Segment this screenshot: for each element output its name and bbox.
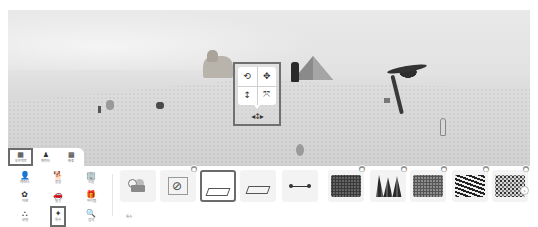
asset-card-zebra[interactable]: ●	[452, 170, 488, 202]
asset-card-line[interactable]	[282, 170, 318, 202]
category-grid: 👤캐릭터 🐕동물 🏢건물 ✿자연 🚗탈것 🎁아이템 ⛬모형 ✦특수 🔍검색	[8, 168, 108, 226]
rotate-button[interactable]: ⟲	[238, 67, 257, 86]
trees-thumbnail	[373, 175, 403, 197]
asset-card-grass[interactable]: ●	[410, 170, 446, 202]
asset-card-frame[interactable]	[200, 170, 236, 202]
move-button[interactable]: ✥	[258, 67, 277, 86]
asset-card-trees[interactable]: ●	[370, 170, 406, 202]
camel-object[interactable]	[156, 102, 164, 109]
height-icon: ↕	[243, 91, 251, 100]
asset-list: ● ● ● ● ● ●	[120, 170, 538, 210]
drag-handle-icon[interactable]: ◂↕▸	[245, 112, 269, 121]
asset-list-label: 특수	[126, 214, 132, 219]
asset-card-noentry[interactable]: ●	[160, 170, 196, 202]
category-model[interactable]: ⛬모형	[8, 207, 41, 226]
asset-panel: 👤캐릭터 🐕동물 🏢건물 ✿자연 🚗탈것 🎁아이템 ⛬모형 ✦특수 🔍검색 ● …	[0, 166, 538, 227]
category-label: 검색	[88, 218, 94, 223]
category-label: 건물	[88, 180, 94, 185]
mode-tabs: ▦ 오브젝트 ♟ 캐릭터 ▩ 배경	[8, 148, 84, 166]
shapes-icon: ⛬	[22, 209, 28, 218]
small-tree-object[interactable]	[106, 100, 114, 110]
panel-divider	[112, 174, 113, 216]
frame-icon	[206, 188, 231, 196]
asset-card-camera[interactable]	[120, 170, 156, 202]
scale-icon: ⤧	[263, 91, 270, 100]
tab-background[interactable]: ▩ 배경	[59, 148, 84, 166]
category-label: 자연	[22, 199, 28, 204]
category-label: 동물	[55, 180, 61, 185]
category-label: 특수	[55, 218, 61, 223]
category-character[interactable]: 👤캐릭터	[8, 168, 41, 187]
pyramid-shade	[313, 56, 333, 80]
asset-card-frame-flat[interactable]	[240, 170, 276, 202]
badge-icon: ●	[440, 165, 448, 173]
special-icon: ✦	[55, 209, 62, 218]
tab-label: 배경	[68, 159, 74, 163]
category-building[interactable]: 🏢건물	[75, 168, 108, 187]
badge-icon: ●	[522, 165, 530, 173]
badge-icon: ●	[482, 165, 490, 173]
palm-leaves	[393, 62, 423, 82]
person-icon: 👤	[20, 171, 30, 180]
character-icon: ♟	[43, 151, 49, 159]
hedge-thumbnail	[331, 175, 361, 197]
move-icon: ✥	[263, 72, 271, 81]
scale-button[interactable]: ⤧	[258, 87, 277, 106]
gift-icon: 🎁	[86, 190, 96, 199]
object-icon: ▦	[17, 151, 24, 159]
badge-icon: ●	[190, 165, 198, 173]
dark-figure-object[interactable]	[291, 62, 299, 82]
category-item[interactable]: 🎁아이템	[75, 187, 108, 206]
camera-icon	[128, 179, 148, 193]
category-label: 캐릭터	[20, 180, 29, 185]
dog-object[interactable]	[384, 98, 390, 103]
category-label: 모형	[22, 218, 28, 223]
category-search[interactable]: 🔍검색	[75, 207, 108, 226]
height-button[interactable]: ↕	[238, 87, 257, 106]
category-vehicle[interactable]: 🚗탈것	[41, 187, 74, 206]
tab-label: 캐릭터	[41, 159, 50, 163]
tab-character[interactable]: ♟ 캐릭터	[33, 148, 58, 166]
rotate-icon: ⟲	[243, 72, 251, 81]
category-label: 아이템	[87, 199, 96, 204]
car-icon: 🚗	[53, 190, 63, 199]
transform-gizmo: ⟲ ✥ ↕ ⤧ ◂↕▸	[233, 62, 281, 126]
sphinx-object[interactable]	[203, 56, 233, 78]
category-special[interactable]: ✦특수	[41, 207, 74, 226]
person-object[interactable]	[440, 118, 446, 136]
line-icon	[291, 186, 309, 187]
rock-object[interactable]	[296, 144, 304, 156]
building-icon: 🏢	[86, 171, 96, 180]
grass-thumbnail	[413, 175, 443, 197]
badge-icon: ●	[400, 165, 408, 173]
background-icon: ▩	[68, 151, 75, 159]
search-icon: 🔍	[86, 209, 96, 218]
small-figure-object[interactable]	[98, 106, 101, 113]
gizmo-pointer	[254, 105, 260, 109]
flat-frame-icon	[246, 186, 271, 194]
next-page-button[interactable]: ›	[520, 186, 529, 195]
editor-root: ⟲ ✥ ↕ ⤧ ◂↕▸ ▦ 오브젝트 ♟ 캐릭터 ▩ 배경 👤캐릭터 🐕동물 🏢…	[0, 0, 538, 227]
badge-icon: ●	[358, 165, 366, 173]
dog-icon: 🐕	[53, 171, 63, 180]
category-nature[interactable]: ✿자연	[8, 187, 41, 206]
sky-haze	[8, 10, 321, 70]
no-entry-icon	[168, 177, 188, 195]
category-animal[interactable]: 🐕동물	[41, 168, 74, 187]
tab-object[interactable]: ▦ 오브젝트	[8, 148, 33, 166]
tab-label: 오브젝트	[15, 159, 27, 163]
flower-icon: ✿	[21, 190, 28, 199]
zebra-thumbnail	[455, 175, 485, 197]
asset-card-hedge[interactable]: ●	[328, 170, 364, 202]
category-label: 탈것	[55, 199, 61, 204]
